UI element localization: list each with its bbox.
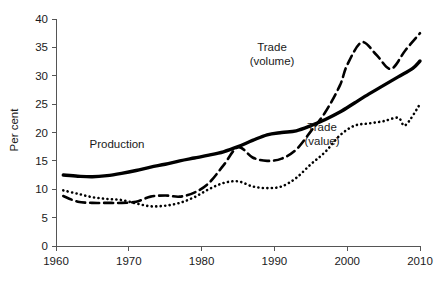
y-tick-label: 0: [42, 240, 48, 252]
y-tick-label: 25: [35, 98, 48, 110]
series-layer: [63, 33, 420, 206]
annotation-layer: ProductionTrade(volume)Trade(value): [90, 41, 340, 150]
trade-volume-label-line2: (volume): [250, 55, 295, 67]
x-tick-label: 1970: [116, 255, 142, 267]
y-tick-label: 5: [42, 212, 48, 224]
trade-volume-label: Trade(volume): [250, 41, 295, 67]
y-axis: 0510152025303540: [35, 13, 56, 252]
y-tick-label: 15: [35, 155, 48, 167]
line-chart-canvas: 0510152025303540 19601970198019902000201…: [0, 0, 439, 283]
production-label: Production: [90, 138, 145, 150]
chart-figure: 0510152025303540 19601970198019902000201…: [0, 0, 439, 283]
y-tick-label: 20: [35, 127, 48, 139]
production-label-text: Production: [90, 138, 145, 150]
series-line-solid: [63, 61, 420, 177]
y-tick-label: 10: [35, 183, 48, 195]
y-tick-label: 30: [35, 70, 48, 82]
y-tick-label: 35: [35, 41, 48, 53]
x-tick-label: 2000: [334, 255, 360, 267]
x-tick-label: 2010: [407, 255, 433, 267]
x-tick-label: 1980: [189, 255, 215, 267]
x-tick-label: 1990: [262, 255, 288, 267]
y-tick-label: 40: [35, 13, 48, 25]
series-line-dashed: [63, 33, 420, 203]
trade-value-label-line2: (value): [304, 135, 339, 147]
y-axis-title: Per cent: [8, 108, 20, 152]
series-line-dotted: [63, 104, 420, 206]
x-axis: 196019701980199020002010: [43, 246, 433, 267]
trade-volume-label-line1: Trade: [257, 41, 287, 53]
x-tick-label: 1960: [43, 255, 69, 267]
trade-value-label-line1: Trade: [307, 121, 337, 133]
